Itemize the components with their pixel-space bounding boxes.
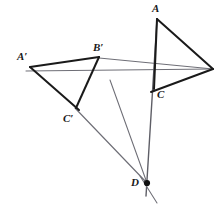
line-Cprime-D-projection <box>75 108 147 183</box>
point-D-dot <box>144 180 150 186</box>
geometry-figure: A C A′ B′ C′ D <box>0 0 220 209</box>
label-B-prime: B′ <box>93 42 103 53</box>
triangle-ABC <box>151 19 213 92</box>
label-A: A <box>152 3 159 14</box>
edge-Aprime-Bprime <box>30 57 99 67</box>
edge-Aprime-Cprime <box>30 67 79 110</box>
figure-canvas <box>0 0 220 209</box>
line-Cprime-B-projection <box>26 69 213 71</box>
label-C-prime: C′ <box>63 113 73 124</box>
label-C: C <box>157 89 164 100</box>
line-E-D-projection <box>110 80 147 183</box>
edge-A-B <box>157 19 213 69</box>
projection-line-group <box>26 19 213 203</box>
triangle-ABC-prime <box>30 57 99 110</box>
label-A-prime: A′ <box>17 51 27 62</box>
line-D-tail-projection <box>140 176 157 203</box>
edge-Bprime-Cprime <box>76 57 99 108</box>
label-D: D <box>131 177 139 188</box>
